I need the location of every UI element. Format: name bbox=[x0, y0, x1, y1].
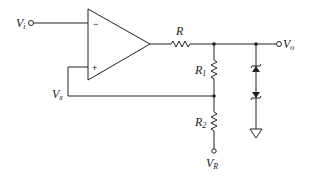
vr-terminal bbox=[212, 149, 216, 153]
label-r: R bbox=[175, 24, 184, 38]
label-vo: Vo bbox=[283, 37, 294, 52]
circuit-diagram: − + Vi Vo Vx VR R R1 R2 bbox=[0, 0, 310, 181]
label-r1: R1 bbox=[194, 63, 206, 78]
vi-terminal bbox=[29, 21, 34, 26]
label-vx: Vx bbox=[52, 87, 63, 102]
resistor-r2 bbox=[211, 112, 217, 131]
vx-feedback-wire bbox=[68, 67, 214, 96]
label-r2: R2 bbox=[194, 115, 206, 130]
zener-diode-upper bbox=[252, 66, 260, 72]
label-vr: VR bbox=[206, 156, 218, 171]
label-vi: Vi bbox=[16, 16, 26, 31]
resistor-r1 bbox=[211, 60, 217, 79]
noninverting-input-sign: + bbox=[92, 63, 97, 73]
ground-icon bbox=[250, 129, 262, 138]
zener-diode-lower bbox=[252, 92, 260, 98]
inverting-input-sign: − bbox=[93, 19, 98, 29]
vo-terminal bbox=[277, 42, 282, 47]
resistor-r bbox=[171, 41, 190, 47]
